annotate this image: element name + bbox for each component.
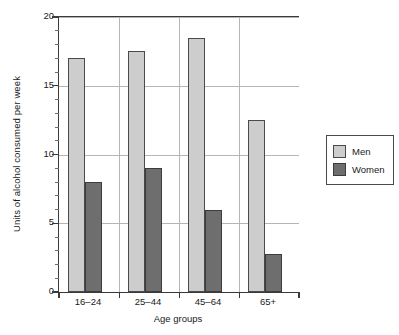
y-axis-tick-minor (55, 44, 59, 45)
y-axis-tick-minor (55, 30, 59, 31)
y-axis-tick-minor (55, 209, 59, 210)
y-axis-tick-minor (55, 72, 59, 73)
y-axis-tick-label: 0 (32, 286, 54, 296)
plot-inner (59, 17, 299, 292)
legend-swatch-men-icon (333, 145, 346, 158)
x-axis-category-label: 65+ (238, 296, 298, 307)
y-axis-tick-labels: 05101520 (30, 0, 54, 335)
y-axis-tick-minor (55, 195, 59, 196)
bar-women (145, 168, 162, 292)
y-axis-tick-minor (55, 182, 59, 183)
y-axis-tick-minor (55, 58, 59, 59)
gridline-vertical (179, 17, 180, 292)
y-axis-tick-minor (55, 168, 59, 169)
x-axis-category-label: 45–64 (178, 296, 238, 307)
y-axis-tick-minor (55, 278, 59, 279)
gridline-vertical (239, 17, 240, 292)
y-axis-tick-minor (55, 127, 59, 128)
y-axis-tick-minor (55, 264, 59, 265)
bar-women (205, 210, 222, 293)
y-axis-title-text: Units of alcohol consumed per week (11, 39, 23, 269)
x-axis-category-label: 16–24 (58, 296, 118, 307)
y-axis-tick-label: 5 (32, 217, 54, 227)
y-axis-tick-minor (55, 113, 59, 114)
y-axis-tick-label: 20 (32, 11, 54, 21)
bar-women (265, 254, 282, 293)
x-axis-category-label: 25–44 (118, 296, 178, 307)
bar-men (248, 120, 265, 292)
x-axis-title: Age groups (58, 313, 298, 324)
y-axis-tick-major (52, 85, 59, 86)
bar-men (128, 51, 145, 292)
y-axis-tick-label: 15 (32, 80, 54, 90)
legend-item-women: Women (333, 160, 385, 178)
legend-item-men: Men (333, 142, 385, 160)
y-axis-tick-major (52, 223, 59, 224)
y-axis-tick-minor (55, 99, 59, 100)
y-axis-tick-minor (55, 237, 59, 238)
legend-swatch-women-icon (333, 163, 346, 176)
y-axis-title: Units of alcohol consumed per week (2, 16, 32, 291)
chart-legend: Men Women (326, 135, 394, 185)
legend-label-men: Men (352, 146, 370, 157)
x-axis-tick-end (298, 292, 299, 298)
y-axis-tick-label: 10 (32, 149, 54, 159)
bar-men (68, 58, 85, 292)
y-axis-tick-minor (55, 250, 59, 251)
y-axis-tick-minor (55, 140, 59, 141)
plot-area (58, 16, 299, 292)
bar-chart-figure: Units of alcohol consumed per week 05101… (0, 0, 399, 335)
y-axis-tick-major (52, 154, 59, 155)
y-axis-tick-major (52, 16, 59, 17)
legend-label-women: Women (352, 164, 385, 175)
bar-women (85, 182, 102, 292)
gridline-vertical (119, 17, 120, 292)
bar-men (188, 38, 205, 292)
